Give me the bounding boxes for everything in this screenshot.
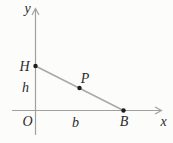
measure-label-b: b [72,115,79,130]
measure-label-h: h [22,80,29,95]
coordinate-diagram: HPBhbyxO [0,0,173,143]
y-axis-label: y [22,1,31,16]
point-B-dot [121,108,125,112]
x-axis-label: x [159,114,167,129]
point-H-dot [33,64,37,68]
figure-canvas: HPBhbyxO [0,0,173,143]
point-H-label: H [18,59,30,74]
point-P-label: P [80,71,90,86]
point-B-label: B [120,114,129,129]
point-P-dot [77,86,81,90]
origin-label: O [22,114,32,129]
